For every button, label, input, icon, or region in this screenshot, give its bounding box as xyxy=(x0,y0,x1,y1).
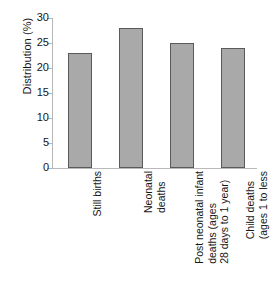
x-axis-label: Neonataldeaths xyxy=(142,171,167,213)
y-tick-label: 5 xyxy=(43,136,49,149)
bar-chart: Distribution (%) 051015202530 Still birt… xyxy=(0,0,270,293)
x-axis-label-line: deaths xyxy=(154,171,167,213)
bar xyxy=(221,48,245,168)
x-axis-label: Still births xyxy=(91,171,104,217)
bar xyxy=(119,28,143,168)
x-axis-label-line: than 5 years) xyxy=(269,171,270,239)
y-tick-label: 10 xyxy=(37,111,49,124)
y-axis-title: Distribution (%) xyxy=(21,0,33,131)
x-axis-label-line: Post neonatal infant xyxy=(193,171,206,264)
y-tick-label: 0 xyxy=(43,161,49,174)
x-axis-label-line: Still births xyxy=(91,171,104,217)
x-axis-label-line: deaths (ages xyxy=(206,171,219,264)
y-tick-label: 25 xyxy=(37,36,49,49)
bar xyxy=(68,53,92,168)
x-axis-labels: Still birthsNeonataldeathsPost neonatal … xyxy=(52,171,257,293)
x-axis-label-line: Child deaths xyxy=(244,171,257,239)
y-axis-line xyxy=(52,18,53,169)
y-tick-label: 15 xyxy=(37,86,49,99)
x-axis-label: Child deaths(ages 1 to lessthan 5 years) xyxy=(244,171,270,239)
bar xyxy=(170,43,194,168)
x-axis-label-line: Neonatal xyxy=(142,171,155,213)
x-axis-label-line: 28 days to 1 year) xyxy=(218,171,231,264)
x-axis-line xyxy=(52,168,257,169)
y-tick-label: 30 xyxy=(37,11,49,24)
plot-area: 051015202530 xyxy=(52,18,257,169)
y-tick-label: 20 xyxy=(37,61,49,74)
x-axis-label-line: (ages 1 to less xyxy=(257,171,270,239)
x-axis-label: Post neonatal infantdeaths (ages28 days … xyxy=(193,171,231,264)
